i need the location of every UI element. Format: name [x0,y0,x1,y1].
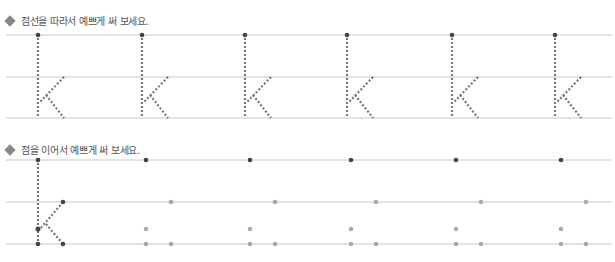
guide-dot [559,158,564,163]
guide-dot [61,242,66,247]
guide-dot [144,158,149,163]
guide-dot [36,158,41,163]
dotted-stroke [355,95,373,118]
guide-dot [61,200,66,205]
dotted-stroke [460,95,478,118]
guide-dot [454,158,459,163]
dotted-stroke [46,224,63,244]
guide-dot [584,242,589,247]
guide-dot [559,227,564,232]
guide-dot [36,242,41,247]
guide-dot [559,242,564,247]
guide-dot [140,33,145,38]
dotted-stroke [349,77,373,102]
dotted-stroke [46,95,64,118]
dotted-stroke [150,95,168,118]
guide-dot [584,200,589,205]
guide-dot [243,33,248,38]
guide-dot [374,200,379,205]
dotted-stroke [40,77,64,102]
guide-dot [248,158,253,163]
dotted-stroke [40,202,63,229]
guide-dot [144,242,149,247]
dotted-stroke [563,95,581,118]
guide-dot [349,227,354,232]
guide-dot [36,33,41,38]
dotted-stroke [454,77,478,102]
dotted-stroke [247,77,271,102]
guide-dot [36,227,41,232]
guide-dot [553,33,558,38]
guide-dot [349,158,354,163]
writing-practice-sheet [0,0,615,262]
guide-dot [454,242,459,247]
dotted-stroke [253,95,271,118]
guide-dot [273,200,278,205]
dotted-stroke [557,77,581,102]
guide-dot [273,242,278,247]
guide-dot [169,242,174,247]
guide-dot [374,242,379,247]
guide-dot [345,33,350,38]
guide-dot [349,242,354,247]
guide-dot [454,227,459,232]
guide-dot [450,33,455,38]
guide-dot [248,242,253,247]
guide-dot [479,200,484,205]
dotted-stroke [144,77,168,102]
guide-dot [144,227,149,232]
guide-dot [479,242,484,247]
guide-dot [169,200,174,205]
guide-dot [248,227,253,232]
